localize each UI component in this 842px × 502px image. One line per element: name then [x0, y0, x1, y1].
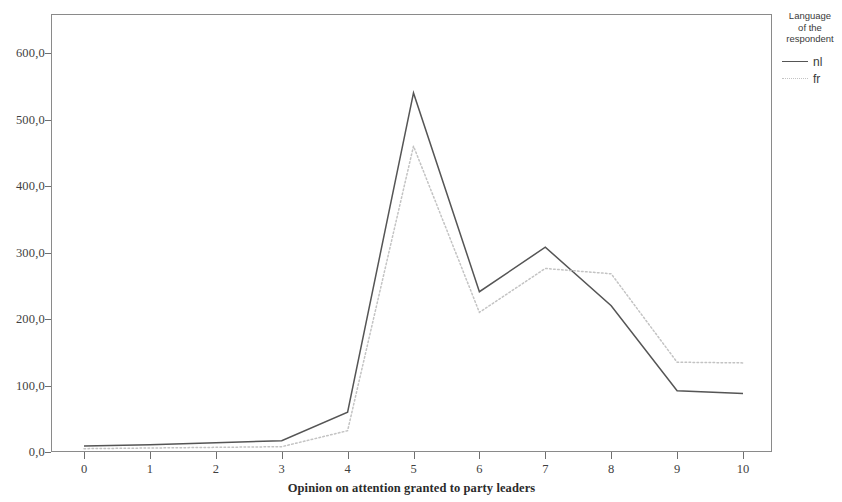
legend-title: Language of the respondent	[778, 10, 842, 45]
legend-swatch-line	[782, 61, 808, 62]
legend-title-line-2: of the	[778, 22, 842, 34]
legend-title-line-1: Language	[778, 10, 842, 22]
x-tick-label: 6	[476, 462, 482, 477]
x-tick-label: 7	[542, 462, 548, 477]
y-tick-mark	[45, 386, 51, 387]
x-tick-mark	[84, 452, 85, 459]
x-tick-mark	[743, 452, 744, 459]
x-tick-label: 4	[344, 462, 350, 477]
x-axis-title: Opinion on attention granted to party le…	[51, 481, 772, 496]
plot-area	[51, 14, 772, 452]
y-tick-label: 0,0	[0, 445, 45, 460]
x-tick-label: 1	[147, 462, 153, 477]
y-tick-label: 400,0	[0, 179, 45, 194]
legend-title-line-3: respondent	[778, 33, 842, 45]
y-tick-mark	[45, 53, 51, 54]
x-tick-mark	[677, 452, 678, 459]
y-tick-mark	[45, 319, 51, 320]
y-tick-mark	[45, 186, 51, 187]
x-tick-mark	[282, 452, 283, 459]
legend-label-nl: nl	[813, 55, 822, 69]
x-tick-mark	[348, 452, 349, 459]
x-tick-label: 9	[674, 462, 680, 477]
x-tick-label: 10	[737, 462, 750, 477]
legend-item-fr: fr	[778, 71, 842, 88]
legend-swatch-line	[782, 78, 808, 79]
y-tick-label: 200,0	[0, 312, 45, 327]
x-tick-label: 5	[410, 462, 416, 477]
line-chart: 0,0100,0200,0300,0400,0500,0600,0 012345…	[0, 0, 842, 502]
legend-item-nl: nl	[778, 54, 842, 71]
y-tick-label: 100,0	[0, 378, 45, 393]
x-tick-label: 2	[213, 462, 219, 477]
x-tick-mark	[414, 452, 415, 459]
y-axis: 0,0100,0200,0300,0400,0500,0600,0	[0, 0, 45, 502]
y-tick-mark	[45, 253, 51, 254]
legend-label-fr: fr	[813, 72, 820, 86]
x-tick-label: 8	[608, 462, 614, 477]
y-tick-label: 500,0	[0, 112, 45, 127]
y-tick-label: 600,0	[0, 46, 45, 61]
x-tick-mark	[216, 452, 217, 459]
legend-swatch-nl	[782, 58, 808, 66]
x-tick-mark	[611, 452, 612, 459]
x-tick-label: 3	[279, 462, 285, 477]
y-tick-mark	[45, 452, 51, 453]
x-tick-mark	[545, 452, 546, 459]
legend-swatch-fr	[782, 75, 808, 83]
chart-legend: Language of the respondent nlfr	[778, 10, 842, 88]
x-tick-label: 0	[81, 462, 87, 477]
y-tick-label: 300,0	[0, 245, 45, 260]
x-tick-mark	[479, 452, 480, 459]
x-tick-mark	[150, 452, 151, 459]
y-tick-mark	[45, 120, 51, 121]
legend-entries: nlfr	[778, 54, 842, 88]
